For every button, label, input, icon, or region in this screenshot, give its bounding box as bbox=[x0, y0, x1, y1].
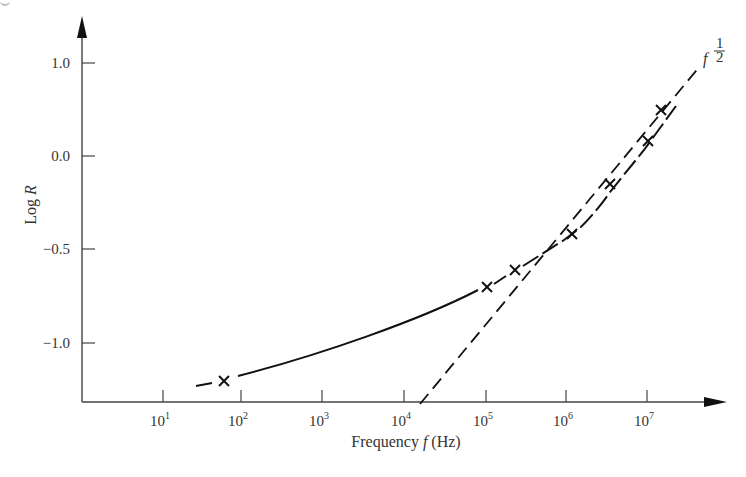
fitted-curve bbox=[238, 290, 478, 376]
fitted-curve-start-dash bbox=[196, 383, 212, 386]
asymptote-line bbox=[420, 66, 700, 404]
data-point bbox=[510, 265, 520, 275]
y-tick-label: −0.5 bbox=[43, 241, 70, 257]
y-tick-label: 0.0 bbox=[51, 148, 70, 164]
x-tick-labels: 101 102 103 104 105 106 107 bbox=[150, 410, 654, 429]
x-tick-label: 101 bbox=[150, 410, 170, 429]
x-axis-arrow-icon bbox=[704, 397, 727, 407]
y-axis-title: Log R bbox=[22, 185, 40, 225]
y-tick-label: −1.0 bbox=[43, 335, 70, 351]
x-axis-title: Frequency f (Hz) bbox=[351, 433, 460, 451]
svg-text:f: f bbox=[703, 50, 710, 68]
x-tick-label: 103 bbox=[309, 410, 329, 429]
axes bbox=[82, 30, 712, 402]
x-tick-label: 107 bbox=[634, 410, 654, 429]
x-tick-label: 105 bbox=[473, 410, 493, 429]
data-point bbox=[567, 229, 577, 239]
x-tick-label: 102 bbox=[228, 410, 248, 429]
data-markers bbox=[219, 105, 666, 386]
x-tick-label: 106 bbox=[553, 410, 573, 429]
data-point bbox=[219, 376, 229, 386]
x-tick-label: 104 bbox=[391, 410, 411, 429]
data-point bbox=[605, 179, 615, 189]
svg-text:2: 2 bbox=[716, 49, 724, 65]
y-tick-label: 1.0 bbox=[51, 55, 70, 71]
asymptote-label: f 1 2 bbox=[703, 35, 725, 68]
fitted-curve-upper bbox=[494, 106, 676, 284]
x-ticks bbox=[163, 390, 647, 402]
chart: 1.0 0.0 −0.5 −1.0 101 102 103 104 105 10… bbox=[0, 0, 746, 477]
y-tick-labels: 1.0 0.0 −0.5 −1.0 bbox=[43, 55, 70, 351]
data-point bbox=[482, 282, 492, 292]
y-ticks bbox=[82, 63, 95, 343]
y-axis-arrow-icon bbox=[77, 16, 87, 38]
